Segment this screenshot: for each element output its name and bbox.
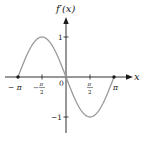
tick-label-neg-pi: − π	[8, 83, 23, 92]
x-axis-arrow-icon	[126, 74, 133, 79]
tick-label-zero: 0	[59, 79, 64, 88]
tick-label-pi: π	[112, 83, 119, 92]
svg-text:2: 2	[40, 89, 44, 95]
svg-text:2: 2	[88, 89, 92, 95]
tick-label-y-neg-1: −1	[51, 113, 62, 122]
svg-text:−: −	[33, 84, 39, 92]
tick-label-neg-pi-half: − π 2	[33, 81, 45, 95]
tick-label-y-pos-1: 1	[58, 33, 63, 42]
point-pi	[112, 75, 115, 78]
point-neg-pi	[16, 75, 19, 78]
y-axis-arrow-icon	[63, 17, 68, 24]
y-axis-label: f′(x)	[55, 3, 76, 14]
svg-text:π: π	[87, 81, 92, 87]
svg-text:π: π	[39, 81, 44, 87]
tick-label-pi-half: π 2	[87, 81, 94, 95]
derivative-chart: f′(x) x − π − π 2 0 π 2 π 1 −1	[0, 0, 141, 141]
x-axis-label: x	[134, 71, 140, 82]
